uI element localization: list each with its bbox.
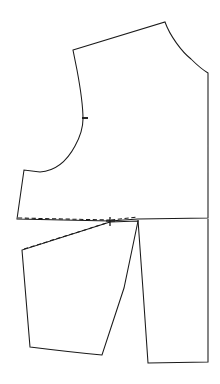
pattern-drawing-canvas	[0, 0, 220, 384]
canvas-background	[0, 0, 220, 384]
